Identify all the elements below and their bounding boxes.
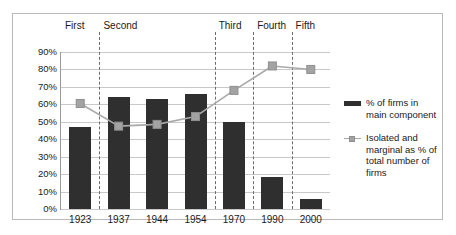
x-axis-tick-label: 1990 bbox=[261, 215, 283, 225]
period-label-fourth: Fourth bbox=[257, 21, 286, 31]
y-axis-tick-label: 0% bbox=[43, 204, 57, 214]
gridline bbox=[61, 209, 330, 210]
period-divider bbox=[292, 32, 293, 209]
x-axis-tick-label: 1944 bbox=[146, 215, 168, 225]
period-label-third: Third bbox=[219, 21, 242, 31]
y-axis-tick-label: 20% bbox=[38, 169, 57, 179]
legend-entry-main-component: % of firms in main component bbox=[344, 97, 440, 120]
period-divider bbox=[253, 32, 254, 209]
legend-label-main-component: % of firms in main component bbox=[366, 97, 440, 120]
y-axis-tick-label: 60% bbox=[38, 100, 57, 110]
bar-1990 bbox=[261, 177, 283, 209]
x-axis-tick-label: 1923 bbox=[69, 215, 91, 225]
legend-label-isolated-marginal: Isolated and marginal as % of total numb… bbox=[366, 132, 440, 178]
period-label-first: First bbox=[65, 21, 84, 31]
bar-1970 bbox=[223, 122, 245, 209]
y-axis-tick-label: 30% bbox=[38, 152, 57, 162]
chart-figure-frame: 0%10%20%30%40%50%60%70%80%90% FirstSecon… bbox=[12, 13, 443, 220]
y-axis-tick-label: 70% bbox=[38, 82, 57, 92]
y-axis-tick-label: 40% bbox=[38, 134, 57, 144]
period-label-fifth: Fifth bbox=[296, 21, 315, 31]
bar-1937 bbox=[108, 97, 130, 209]
gridline bbox=[61, 87, 330, 88]
x-axis-tick-label: 1970 bbox=[223, 215, 245, 225]
bar-1954 bbox=[185, 94, 207, 209]
x-axis-tick-label: 1937 bbox=[108, 215, 130, 225]
bar-swatch-icon bbox=[344, 100, 361, 108]
y-axis-tick-label: 90% bbox=[38, 47, 57, 57]
legend-entry-isolated-marginal: Isolated and marginal as % of total numb… bbox=[344, 132, 440, 178]
bar-1923 bbox=[69, 127, 91, 209]
line-marker-swatch-icon bbox=[344, 135, 361, 143]
bar-1944 bbox=[146, 99, 168, 209]
period-divider bbox=[215, 32, 216, 209]
gridline bbox=[61, 69, 330, 70]
x-axis-tick-label: 1954 bbox=[184, 215, 206, 225]
bar-2000 bbox=[300, 199, 322, 209]
period-divider bbox=[99, 32, 100, 209]
period-label-second: Second bbox=[103, 21, 137, 31]
plot-area: 0%10%20%30%40%50%60%70%80%90% FirstSecon… bbox=[60, 52, 330, 210]
y-axis-tick-label: 80% bbox=[38, 65, 57, 75]
y-axis-tick-label: 10% bbox=[38, 187, 57, 197]
gridline bbox=[61, 52, 330, 53]
x-axis-tick-label: 2000 bbox=[300, 215, 322, 225]
y-axis-tick-label: 50% bbox=[38, 117, 57, 127]
chart-legend: % of firms in main component Isolated an… bbox=[344, 97, 440, 190]
